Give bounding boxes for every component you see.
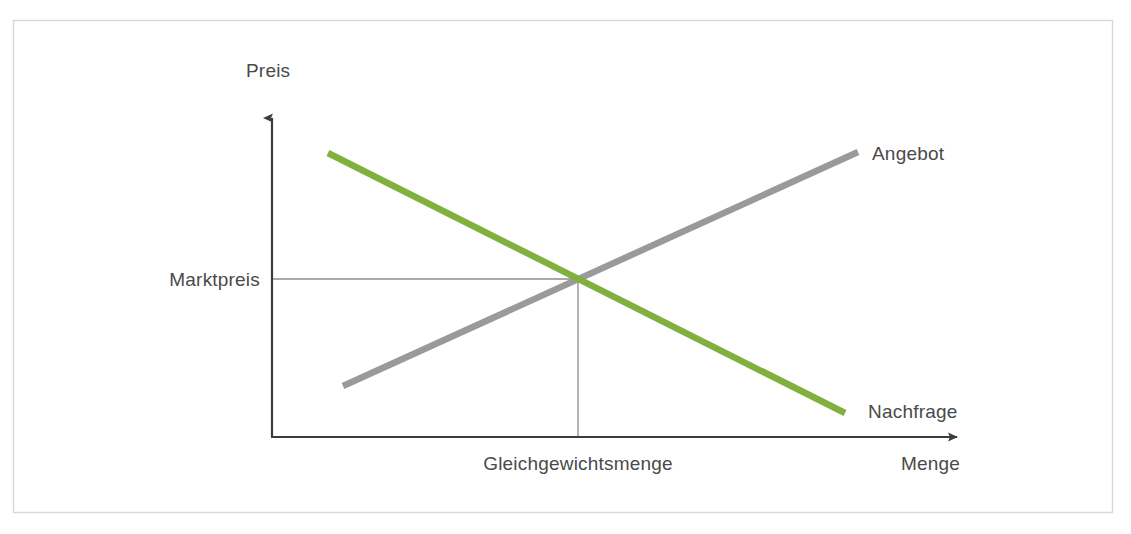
supply-curve: [343, 152, 858, 386]
supply-curve-label: Angebot: [872, 143, 945, 164]
supply-demand-figure: Preis Marktpreis Gleichgewichtsmenge Ang…: [0, 0, 1131, 534]
figure-frame: [14, 21, 1113, 513]
demand-curve-label: Nachfrage: [868, 401, 957, 422]
x-axis-label: Menge: [901, 453, 960, 474]
equilibrium-quantity-label: Gleichgewichtsmenge: [483, 453, 673, 474]
equilibrium-price-label: Marktpreis: [169, 269, 260, 290]
supply-demand-chart: Preis Marktpreis Gleichgewichtsmenge Ang…: [0, 0, 1131, 534]
y-axis-label: Preis: [246, 60, 290, 81]
